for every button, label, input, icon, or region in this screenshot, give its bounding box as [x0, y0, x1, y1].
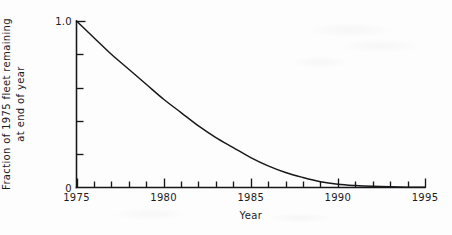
x-tick-label-1985: 1985: [237, 192, 264, 203]
y-tick-label-top: 1.0: [46, 16, 72, 27]
y-axis-title-line2: at end of year: [14, 14, 28, 194]
x-tick-label-1980: 1980: [150, 192, 177, 203]
y-axis-title: Fraction of 1975 fleet remaining at end …: [0, 14, 28, 194]
x-tick-label-1990: 1990: [325, 192, 352, 203]
x-tick-label-1995: 1995: [412, 192, 439, 203]
figure-canvas: 1.0 0 19751980198519901995 Year Fraction…: [0, 0, 452, 235]
x-axis-title: Year: [240, 210, 263, 221]
x-tick-label-1975: 1975: [63, 192, 90, 203]
y-axis-ticks: [77, 22, 86, 155]
y-axis-title-line1: Fraction of 1975 fleet remaining: [1, 18, 12, 190]
fleet-remaining-curve: [77, 21, 426, 187]
